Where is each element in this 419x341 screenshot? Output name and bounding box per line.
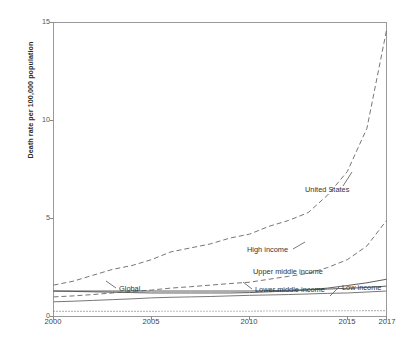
series-label-upper-middle-income: Upper middle income [253, 268, 323, 275]
series-line-high-income [54, 220, 387, 296]
leader-line-high-income [293, 242, 305, 249]
series-line-united-states [54, 30, 387, 285]
series-label-lower-middle-income: Lower middle income [255, 286, 325, 293]
series-label-global: Global [119, 285, 140, 292]
series-line-low-income [54, 311, 387, 312]
series-label-low-income: Low income [342, 284, 381, 291]
leader-line-lower-middle [243, 282, 252, 289]
data-series-group [54, 30, 387, 311]
axis-tick-marks [50, 23, 387, 321]
series-label-united-states: United States [305, 186, 349, 193]
leader-line-united-states [343, 172, 352, 186]
leader-line-global [106, 281, 116, 288]
chart-figure: Death rate per 100,000 population 15 10 … [0, 0, 419, 341]
series-label-high-income: High income [247, 246, 288, 253]
